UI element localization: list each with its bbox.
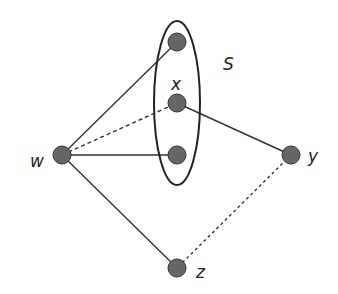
node-label-x: x [170, 74, 182, 94]
node-z [168, 259, 186, 277]
node-label-w: w [30, 151, 44, 171]
node-s3 [168, 146, 186, 164]
node-y [282, 146, 300, 164]
set-label-s: S [223, 54, 234, 74]
edge-w-x [62, 103, 177, 155]
node-x [168, 94, 186, 112]
node-w [53, 146, 71, 164]
edge-w-s1 [62, 42, 177, 155]
node-label-y: y [307, 146, 319, 166]
graph-diagram: S x w y z [0, 0, 338, 294]
edge-x-y [177, 103, 291, 155]
edge-y-z [177, 155, 291, 268]
edge-w-z [62, 155, 177, 268]
node-s1 [168, 33, 186, 51]
node-label-z: z [195, 262, 206, 282]
